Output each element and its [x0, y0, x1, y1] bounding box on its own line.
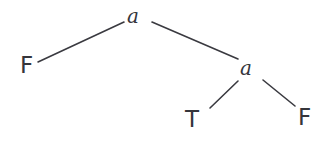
edge-root-to-left-f	[38, 22, 124, 62]
tree-node-internal-a-right: a	[240, 58, 252, 78]
tree-node-leaf-f-left: F	[20, 54, 33, 77]
tree-diagram: a F a T F	[0, 0, 326, 143]
edge-root-to-right-a	[152, 22, 238, 59]
tree-node-root-a: a	[127, 6, 139, 26]
tree-edges-layer	[0, 0, 326, 143]
tree-node-leaf-f-right: F	[298, 106, 311, 129]
edge-a2-to-f	[263, 80, 295, 106]
edge-a2-to-t	[210, 81, 238, 108]
tree-node-leaf-t: T	[185, 108, 199, 131]
